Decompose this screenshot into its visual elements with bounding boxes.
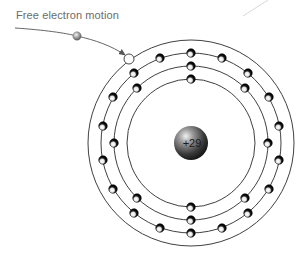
electron-shell-3 [130, 69, 139, 78]
electron-shell-1 [187, 203, 196, 212]
nucleus-charge-label: +29 [183, 137, 202, 149]
free-electron-path-arrow [15, 28, 125, 55]
electron-shell-2 [110, 139, 119, 148]
free-electron-motion-label: Free electron motion [16, 9, 119, 21]
electron-shell-2 [187, 216, 196, 225]
electron-shell-1 [187, 75, 196, 84]
electron-shell-3 [275, 156, 284, 165]
electron-shell-3 [109, 93, 118, 102]
faint-edge-line [243, 0, 268, 16]
electron-shell-3 [99, 156, 108, 165]
electron-shell-3 [109, 185, 118, 194]
electron-shell-2 [264, 139, 273, 148]
electron-shell-3 [187, 229, 196, 238]
electron-shell-3 [218, 54, 227, 63]
electron-shell-2 [241, 194, 250, 203]
copper-atom-illustration: +29 [0, 0, 307, 262]
electron-shell-3 [218, 224, 227, 233]
electron-shell-2 [241, 84, 250, 93]
electron-shell-3 [156, 54, 165, 63]
electron-shell-3 [130, 209, 139, 218]
nucleus: +29 [174, 126, 208, 160]
free-electron [73, 32, 81, 40]
electron-shell-3 [244, 69, 253, 78]
electron-shell-3 [275, 122, 284, 131]
electron-shell-3 [265, 93, 274, 102]
electron-shell-2 [187, 62, 196, 71]
electron-shell-3 [244, 209, 253, 218]
electron-shell-3 [265, 185, 274, 194]
electron-vacancy [124, 54, 134, 64]
electron-shell-3 [156, 224, 165, 233]
electron-shell-2 [133, 84, 142, 93]
electron-shell-3 [187, 49, 196, 58]
atom-diagram: +29 Free electron motion [0, 0, 307, 262]
electron-shell-2 [133, 194, 142, 203]
electron-shell-3 [99, 122, 108, 131]
